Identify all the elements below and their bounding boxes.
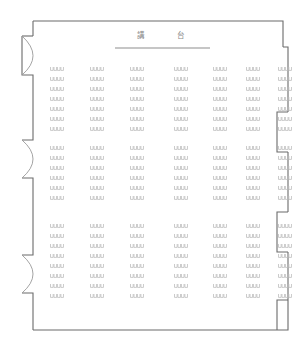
seat[interactable] [253,234,256,237]
seat[interactable] [175,127,178,130]
seat[interactable] [250,166,253,169]
seat[interactable] [91,127,94,130]
seat[interactable] [217,67,220,70]
seat[interactable] [137,244,140,247]
seat[interactable] [289,186,292,189]
seat[interactable] [97,67,100,70]
seat[interactable] [220,156,223,159]
seat[interactable] [134,117,137,120]
seat-block[interactable] [247,156,260,159]
seat[interactable] [279,166,282,169]
seat[interactable] [289,176,292,179]
seat-block[interactable] [91,127,104,130]
seat[interactable] [134,254,137,257]
seat[interactable] [175,254,178,257]
seat[interactable] [57,176,60,179]
seat[interactable] [224,196,227,199]
seat[interactable] [51,224,54,227]
seat-block[interactable] [279,146,292,149]
seat[interactable] [91,97,94,100]
seat-block[interactable] [247,166,260,169]
seat[interactable] [57,186,60,189]
seat-block[interactable] [131,67,144,70]
seat[interactable] [141,196,144,199]
seat-block[interactable] [214,127,227,130]
seat[interactable] [279,274,282,277]
seat[interactable] [54,264,57,267]
seat-block[interactable] [175,234,188,237]
seat[interactable] [247,274,250,277]
seat[interactable] [137,97,140,100]
seat[interactable] [279,294,282,297]
seat[interactable] [101,176,104,179]
seat[interactable] [54,224,57,227]
seat[interactable] [214,196,217,199]
seat-block[interactable] [175,254,188,257]
seat[interactable] [181,274,184,277]
seat[interactable] [61,127,64,130]
seat-block[interactable] [214,284,227,287]
seat-block[interactable] [247,176,260,179]
seat[interactable] [279,264,282,267]
seat[interactable] [279,77,282,80]
seat-block[interactable] [51,107,64,110]
seat[interactable] [61,77,64,80]
seat[interactable] [220,186,223,189]
seat-block[interactable] [91,87,104,90]
seat[interactable] [91,176,94,179]
seat[interactable] [185,117,188,120]
seat[interactable] [185,77,188,80]
seat[interactable] [257,264,260,267]
seat[interactable] [250,87,253,90]
seat[interactable] [97,166,100,169]
seat[interactable] [134,156,137,159]
seat[interactable] [217,77,220,80]
seat[interactable] [220,146,223,149]
seat[interactable] [61,186,64,189]
seat-block[interactable] [51,234,64,237]
seat[interactable] [131,264,134,267]
seat-block[interactable] [247,274,260,277]
seat[interactable] [253,224,256,227]
seat[interactable] [224,294,227,297]
seat-block[interactable] [91,294,104,297]
seat-block[interactable] [131,107,144,110]
seat[interactable] [141,284,144,287]
seat-block[interactable] [175,166,188,169]
seat-block[interactable] [214,254,227,257]
seat[interactable] [279,87,282,90]
seat[interactable] [181,107,184,110]
seat[interactable] [54,166,57,169]
seat[interactable] [257,127,260,130]
seat-block[interactable] [51,117,64,120]
seat[interactable] [282,67,285,70]
seat-block[interactable] [51,294,64,297]
seat-block[interactable] [214,67,227,70]
seat[interactable] [134,87,137,90]
seat[interactable] [217,284,220,287]
seat[interactable] [279,176,282,179]
seat[interactable] [91,156,94,159]
seat[interactable] [217,146,220,149]
seat[interactable] [250,244,253,247]
seat[interactable] [279,156,282,159]
seat[interactable] [253,107,256,110]
seat[interactable] [257,166,260,169]
seat-block[interactable] [175,274,188,277]
seat-block[interactable] [91,264,104,267]
seat[interactable] [137,117,140,120]
seat[interactable] [253,196,256,199]
seat[interactable] [224,274,227,277]
seat[interactable] [279,107,282,110]
seat-block[interactable] [175,77,188,80]
seat[interactable] [282,284,285,287]
seat[interactable] [279,117,282,120]
seat[interactable] [175,97,178,100]
seat[interactable] [51,234,54,237]
seat[interactable] [61,254,64,257]
seat[interactable] [54,127,57,130]
seat[interactable] [214,234,217,237]
seat[interactable] [54,274,57,277]
seat-block[interactable] [51,166,64,169]
seat[interactable] [175,186,178,189]
